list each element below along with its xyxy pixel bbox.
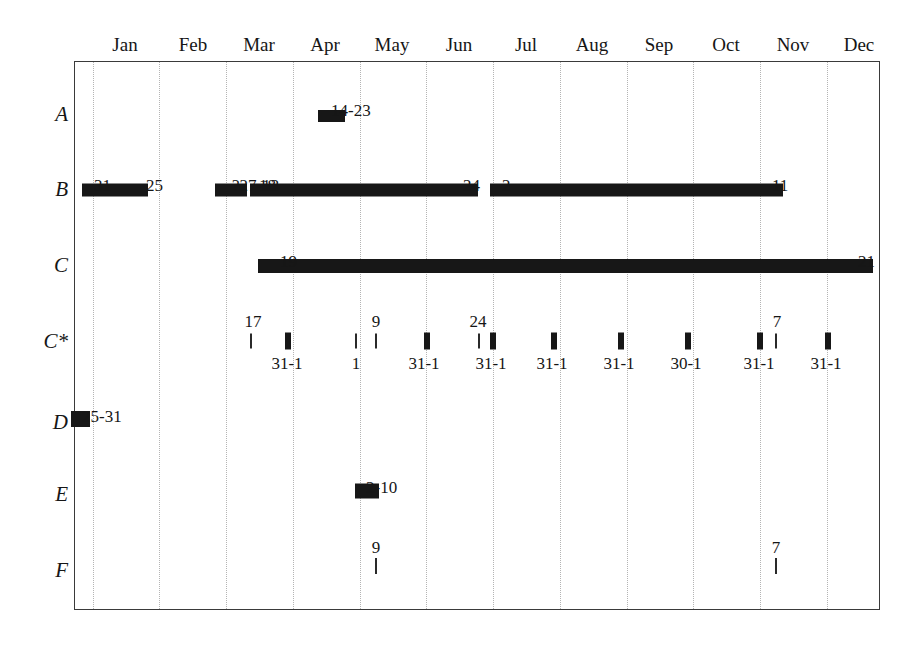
month-label-jun: Jun — [446, 34, 472, 56]
cstar-label-below-7: 31-1 — [743, 355, 774, 373]
row-label-e: E — [55, 484, 68, 505]
cstar-label-below-6: 30-1 — [670, 355, 701, 373]
month-axis-header: JanFebMarAprMayJunJulAugSepOctNovDec — [0, 34, 922, 60]
month-label-nov: Nov — [777, 34, 810, 56]
gridline-9 — [693, 62, 694, 609]
month-label-feb: Feb — [179, 34, 208, 56]
month-label-aug: Aug — [576, 34, 609, 56]
cstar-tick-12 — [825, 333, 831, 350]
cstar-tick-6 — [490, 333, 496, 350]
f-label-above-0: 9 — [372, 539, 381, 557]
value-label-a-0: 14-23 — [331, 102, 371, 120]
cstar-tick-9 — [685, 333, 691, 350]
gridline-7 — [560, 62, 561, 609]
cstar-tick-5 — [478, 334, 480, 349]
value-label-d-10: 25-31 — [82, 408, 122, 426]
value-label-b-2: 25 — [146, 177, 163, 195]
row-label-a: A — [55, 104, 68, 125]
row-label-d: D — [53, 412, 68, 433]
f-tick-0 — [375, 558, 377, 574]
value-label-b-4: 18 — [259, 177, 276, 195]
value-label-b-6: 2 — [502, 177, 511, 195]
value-label-b-7: 11 — [772, 177, 788, 195]
row-label-f: F — [55, 560, 68, 581]
cstar-tick-1 — [285, 333, 291, 350]
row-label-c: C — [54, 255, 68, 276]
value-label-c-8: 19 — [280, 253, 297, 271]
cstar-label-above-3: 7 — [773, 313, 782, 331]
value-label-c-9: 21 — [858, 253, 875, 271]
cstar-label-below-4: 31-1 — [536, 355, 567, 373]
month-label-oct: Oct — [712, 34, 739, 56]
month-label-may: May — [375, 34, 410, 56]
value-label-b-5: 24 — [463, 177, 480, 195]
cstar-label-below-5: 31-1 — [603, 355, 634, 373]
month-label-jul: Jul — [515, 34, 537, 56]
gridline-0 — [93, 62, 94, 609]
month-label-dec: Dec — [844, 34, 875, 56]
f-label-above-1: 7 — [772, 539, 781, 557]
cstar-label-below-2: 31-1 — [408, 355, 439, 373]
cstar-tick-7 — [551, 333, 557, 350]
bar-c-1 — [258, 259, 873, 273]
cstar-label-below-3: 31-1 — [475, 355, 506, 373]
cstar-tick-4 — [424, 333, 430, 350]
cstar-label-above-0: 17 — [245, 313, 262, 331]
cstar-tick-0 — [250, 334, 252, 349]
cstar-label-below-0: 31-1 — [271, 355, 302, 373]
gridline-1 — [159, 62, 160, 609]
cstar-label-above-2: 24 — [470, 313, 487, 331]
gridline-3 — [293, 62, 294, 609]
bar-b-3 — [250, 184, 478, 197]
value-label-b-1: 31 — [94, 177, 111, 195]
cstar-tick-10 — [757, 333, 763, 350]
month-label-sep: Sep — [645, 34, 674, 56]
value-label-e-11: 2-10 — [366, 479, 397, 497]
cstar-label-below-1: 1 — [352, 355, 361, 373]
month-label-mar: Mar — [243, 34, 275, 56]
bar-b-1 — [82, 184, 148, 197]
gridline-8 — [627, 62, 628, 609]
gridline-4 — [360, 62, 361, 609]
cstar-tick-11 — [775, 334, 777, 349]
row-label-cstar: C* — [43, 331, 68, 352]
cstar-label-above-1: 9 — [372, 313, 381, 331]
row-label-b: B — [55, 179, 68, 200]
cstar-label-below-8: 31-1 — [810, 355, 841, 373]
cstar-tick-8 — [618, 333, 624, 350]
gridline-2 — [226, 62, 227, 609]
timeline-chart: JanFebMarAprMayJunJulAugSepOctNovDec ABC… — [0, 0, 922, 650]
month-label-apr: Apr — [310, 34, 340, 56]
month-label-jan: Jan — [112, 34, 137, 56]
cstar-tick-2 — [355, 334, 357, 349]
cstar-tick-3 — [375, 334, 377, 349]
bar-b-4 — [490, 184, 783, 197]
f-tick-1 — [775, 558, 777, 574]
